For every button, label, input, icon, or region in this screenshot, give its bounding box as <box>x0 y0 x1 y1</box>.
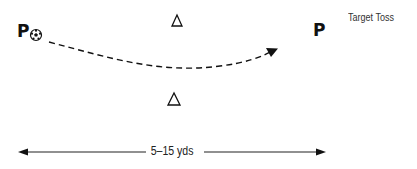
pass-path-dashed-arrow <box>49 42 274 68</box>
soccer-ball-icon <box>31 30 42 41</box>
drill-title: Target Toss <box>348 11 394 23</box>
distance-arrow-left-head-icon <box>18 149 28 156</box>
receiver-player-label: P <box>313 22 325 39</box>
pass-arrowhead-icon <box>266 48 278 57</box>
distance-label: 5–15 yds <box>148 144 196 158</box>
distance-arrow-right-head-icon <box>316 149 326 156</box>
cone-bottom-icon <box>168 93 180 105</box>
passer-player-label: P <box>17 23 29 40</box>
drill-diagram <box>0 0 417 169</box>
cone-top-icon <box>172 15 182 26</box>
